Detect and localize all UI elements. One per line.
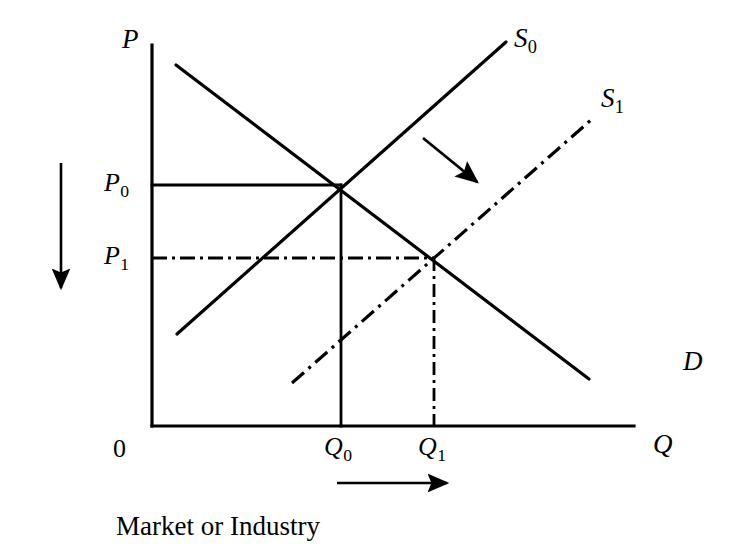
supply-demand-figure: P Q 0 P0 P1 Q0 Q1 S0 S1 D Market or Indu… [0,0,746,560]
p1-label-subscript: 1 [120,254,129,274]
s0-label-subscript: 0 [528,37,537,57]
supply-curve-s0-label: S0 [514,25,537,52]
x-axis-label: Q [653,431,673,458]
q1-label-base: Q [418,432,437,461]
s1-label-base: S [601,83,615,113]
p1-label: P1 [104,243,129,269]
supply-demand-chart-canvas [0,0,746,560]
p0-label: P0 [104,170,129,196]
s0-label-base: S [514,23,528,53]
supply-shift-arrow [423,138,477,182]
p1-label-base: P [104,241,120,270]
p0-label-subscript: 0 [120,181,129,201]
figure-caption: Market or Industry [116,513,320,540]
demand-curve [176,65,589,379]
demand-curve-label: D [683,348,703,375]
origin-label: 0 [113,436,126,462]
p0-label-base: P [104,168,120,197]
equilibrium-1-guides [152,258,434,426]
q1-label-subscript: 1 [437,445,446,465]
q0-label: Q0 [324,434,352,460]
equilibrium-0-guides [152,185,341,426]
y-axis-label: P [122,26,139,53]
s1-label-subscript: 1 [615,97,624,117]
q0-label-base: Q [324,432,343,461]
q0-label-subscript: 0 [343,445,352,465]
q1-label: Q1 [418,434,446,460]
supply-curve-s1 [292,120,591,383]
supply-curve-s1-label: S1 [601,85,624,112]
